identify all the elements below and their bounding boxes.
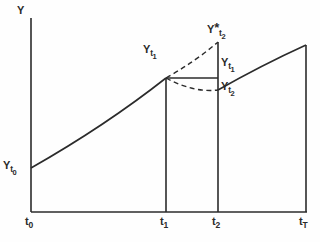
- y-axis-label: Y: [17, 5, 24, 16]
- x-tick-label-tT: tT: [299, 216, 307, 227]
- potential-path-upper-dashed: [166, 42, 218, 78]
- y-t1-left-label: Yt1: [143, 44, 156, 55]
- x-tick-label-t2: t2: [212, 216, 220, 227]
- y-t2-right-label: Yt2: [221, 81, 234, 92]
- y-t2-star-label: Y*t2: [207, 22, 225, 35]
- y-t1-right-label: Yt1: [221, 57, 234, 68]
- baseline-growth-path: [31, 78, 166, 168]
- figure-canvas: Y Yt0 Yt1 Y*t2 Yt1 Yt2 t0 t1 t2 tT: [0, 0, 320, 242]
- y-t0-label: Yt0: [3, 160, 16, 171]
- x-tick-label-t1: t1: [160, 216, 168, 227]
- actual-path-lower-dashed: [166, 78, 218, 91]
- growth-path-diagram: [0, 0, 320, 242]
- x-tick-label-t0: t0: [25, 216, 33, 227]
